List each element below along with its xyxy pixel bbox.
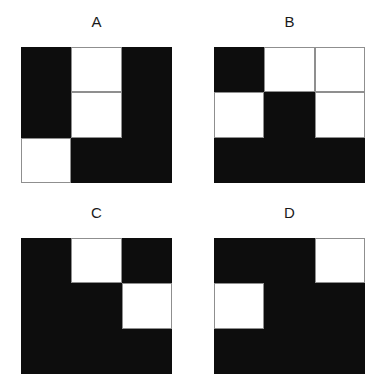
panel-a-cell-r2c2 [71,92,121,137]
panel-c-cell-r3c1 [21,329,71,374]
panel-b-cell-r3c3 [315,138,365,183]
panel-c-cell-r1c1 [21,238,71,283]
panel-d-label: D [193,205,386,220]
panel-d-cell-r1c3 [315,238,365,283]
panel-b-cell-r2c1 [214,92,264,137]
panel-c-cell-r2c2 [71,283,121,328]
panel-a-cell-r2c3 [122,92,172,137]
panel-d-cell-r1c1 [214,238,264,283]
panel-a-cell-r3c1 [21,138,71,183]
panel-c: C [0,191,193,382]
panel-d-cell-r3c1 [214,329,264,374]
panel-a: A [0,0,193,191]
panel-d-grid [214,238,365,374]
panel-b-cell-r2c2 [264,92,314,137]
panel-b-cell-r1c2 [264,47,314,92]
panel-d-cell-r1c2 [264,238,314,283]
panel-b-cell-r1c3 [315,47,365,92]
panel-b-grid [214,47,365,183]
panel-d-cell-r2c2 [264,283,314,328]
panel-a-cell-r1c1 [21,47,71,92]
panel-d-cell-r2c3 [315,283,365,328]
panel-b-cell-r3c1 [214,138,264,183]
panel-d-cell-r3c2 [264,329,314,374]
panel-d: D [193,191,386,382]
panel-c-cell-r3c2 [71,329,121,374]
panel-a-cell-r3c2 [71,138,121,183]
panel-a-cell-r1c2 [71,47,121,92]
figure-canvas: A B C [0,0,386,382]
panel-a-cell-r2c1 [21,92,71,137]
panel-d-cell-r3c3 [315,329,365,374]
panel-a-label: A [0,14,193,29]
panel-c-cell-r1c3 [122,238,172,283]
panel-c-cell-r1c2 [71,238,121,283]
panel-c-cell-r2c1 [21,283,71,328]
panel-b-cell-r2c3 [315,92,365,137]
panel-c-grid [21,238,172,374]
panel-a-grid [21,47,172,183]
panel-b-cell-r3c2 [264,138,314,183]
panel-c-cell-r3c3 [122,329,172,374]
panel-a-cell-r1c3 [122,47,172,92]
panel-b: B [193,0,386,191]
panel-c-cell-r2c3 [122,283,172,328]
panel-b-cell-r1c1 [214,47,264,92]
panel-a-cell-r3c3 [122,138,172,183]
panel-b-label: B [193,14,386,29]
panel-d-cell-r2c1 [214,283,264,328]
panel-c-label: C [0,205,193,220]
